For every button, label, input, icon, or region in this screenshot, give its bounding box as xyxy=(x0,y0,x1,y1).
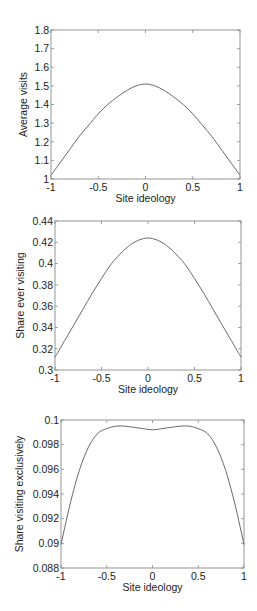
y-tick-label: 0.094 xyxy=(33,488,59,500)
y-tick-label: 0.088 xyxy=(33,562,59,574)
series-line xyxy=(61,426,244,545)
chart-average-visits: -1-0.500.5111.11.21.31.41.51.61.71.8Site… xyxy=(17,24,243,204)
y-tick-label: 0.36 xyxy=(33,300,54,312)
plot-area-frame xyxy=(51,30,240,179)
x-tick-label: -0.5 xyxy=(89,181,107,193)
x-axis-label: Site ideology xyxy=(122,581,183,593)
plot-area-frame xyxy=(61,420,244,568)
y-tick-label: 0.09 xyxy=(39,537,60,549)
chart-share-ever-visiting: -1-0.500.510.30.320.340.360.380.40.420.4… xyxy=(14,215,244,395)
y-axis-label: Share visiting exclusively xyxy=(13,435,25,552)
x-tick-label: -0.5 xyxy=(98,570,116,582)
y-axis-label: Share ever visiting xyxy=(14,252,26,339)
y-tick-label: 0.096 xyxy=(33,463,59,475)
x-tick-label: -0.5 xyxy=(92,372,110,384)
y-axis-label: Average visits xyxy=(17,72,29,137)
y-tick-label: 1 xyxy=(43,173,49,185)
x-tick-label: 0.5 xyxy=(191,570,206,582)
y-tick-label: 0.34 xyxy=(33,321,54,333)
y-tick-label: 1.6 xyxy=(34,61,49,73)
y-tick-label: 1.1 xyxy=(34,154,49,166)
y-tick-label: 0.44 xyxy=(33,215,54,227)
y-tick-label: 0.3 xyxy=(38,364,53,376)
x-tick-label: 1 xyxy=(241,570,247,582)
x-axis-label: Site ideology xyxy=(118,383,179,395)
x-tick-label: 1 xyxy=(237,181,243,193)
series-line xyxy=(51,84,240,175)
y-tick-label: 0.4 xyxy=(38,257,53,269)
y-tick-label: 1.2 xyxy=(34,136,49,148)
y-tick-label: 1.4 xyxy=(34,98,49,110)
y-tick-label: 0.1 xyxy=(44,414,59,426)
figure: -1-0.500.5111.11.21.31.41.51.61.71.8Site… xyxy=(0,0,257,611)
y-tick-label: 0.092 xyxy=(33,512,59,524)
y-tick-label: 1.5 xyxy=(34,80,49,92)
x-tick-label: 0.5 xyxy=(187,372,202,384)
y-tick-label: 0.098 xyxy=(33,438,59,450)
y-tick-label: 0.38 xyxy=(33,279,54,291)
y-tick-label: 0.32 xyxy=(33,343,54,355)
chart-share-visiting-exclusively: -1-0.500.510.0880.090.0920.0940.0960.098… xyxy=(13,414,247,593)
x-tick-label: 1 xyxy=(238,372,244,384)
series-line xyxy=(55,238,241,357)
x-tick-label: 0.5 xyxy=(185,181,200,193)
y-tick-label: 0.42 xyxy=(33,236,54,248)
y-tick-label: 1.3 xyxy=(34,117,49,129)
y-tick-label: 1.7 xyxy=(34,42,49,54)
x-axis-label: Site ideology xyxy=(115,192,176,204)
y-tick-label: 1.8 xyxy=(34,24,49,36)
plot-area-frame xyxy=(55,221,241,370)
